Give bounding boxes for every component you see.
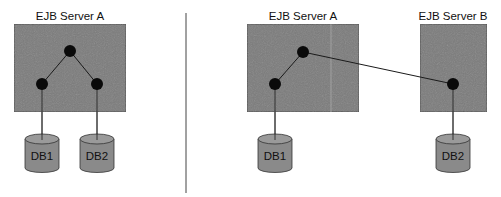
db2-cylinder-right: DB2 (436, 112, 470, 173)
node-right (91, 78, 103, 90)
node-serverb (447, 78, 459, 90)
node-root-right (297, 46, 309, 58)
db2-label-right: DB2 (442, 150, 464, 162)
server-a-box (14, 24, 126, 112)
ejb-transaction-diagram: EJB Server A DB1 DB2 EJB Server A (0, 0, 501, 197)
db2-label: DB2 (86, 150, 108, 162)
node-left (36, 78, 48, 90)
right-diagram: EJB Server A EJB Server B DB1 DB2 (247, 10, 488, 173)
db2-cylinder: DB2 (80, 112, 114, 173)
db1-label: DB1 (31, 150, 53, 162)
server-b-label: EJB Server B (418, 10, 487, 22)
db1-label-right: DB1 (264, 150, 286, 162)
server-a-label-right: EJB Server A (269, 10, 338, 22)
server-b-box (420, 24, 487, 112)
node-root (64, 45, 76, 57)
server-a-box-right (247, 24, 359, 112)
server-a-label: EJB Server A (36, 10, 105, 22)
left-diagram: EJB Server A DB1 DB2 (14, 10, 126, 173)
db1-cylinder-right: DB1 (258, 112, 292, 172)
db1-cylinder: DB1 (25, 112, 59, 173)
node-left-right (269, 78, 281, 90)
